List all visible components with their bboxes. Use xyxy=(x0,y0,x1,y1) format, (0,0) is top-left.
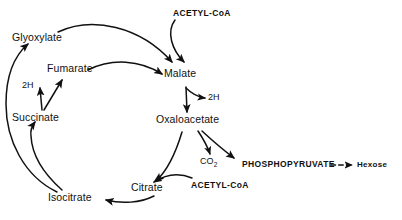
node-citrate: Citrate xyxy=(131,182,163,193)
co2-subscript: 2 xyxy=(214,161,218,168)
edge-acetylcoa-top-to-malate xyxy=(171,20,184,62)
node-fumarate: Fumarate xyxy=(47,63,93,74)
node-oxaloacetate: Oxaloacetate xyxy=(156,114,219,125)
edge-fumarate-to-malate xyxy=(88,62,162,74)
node-acetyl-coa-bottom: ACETYL-CoA xyxy=(191,181,249,190)
node-phosphopyruvate: PHOSPHOPYRUVATE xyxy=(242,160,335,169)
edge-oxaloacetate-to-co2 xyxy=(198,131,210,154)
edge-succinate-to-fumarate xyxy=(44,80,62,110)
node-acetyl-coa-top: ACETYL-CoA xyxy=(173,9,231,18)
node-co2: CO2 xyxy=(200,157,217,168)
node-isocitrate: Isocitrate xyxy=(48,192,92,203)
edge-oxaloacetate-to-citrate xyxy=(156,132,182,181)
edge-malate-to-oxaloacetate xyxy=(186,87,187,112)
node-malate: Malate xyxy=(164,68,196,79)
co2-formula-text: CO xyxy=(200,156,214,166)
edge-glyoxylate-to-malate xyxy=(58,25,172,62)
edge-succinate-to-2h xyxy=(40,88,42,110)
label-2h-right: 2H xyxy=(208,93,220,102)
label-2h-left: 2H xyxy=(22,81,34,90)
edge-malate-to-2h xyxy=(186,88,205,98)
edge-citrate-to-isocitrate xyxy=(106,196,154,202)
node-succinate: Succinate xyxy=(12,112,59,123)
edge-isocitrate-to-succinate xyxy=(31,122,62,190)
node-glyoxylate: Glyoxylate xyxy=(12,32,62,43)
pathway-diagram: Hexose (dashed) --> Glyoxylate Fumarate … xyxy=(0,0,402,220)
node-hexose: Hexose xyxy=(357,161,387,169)
